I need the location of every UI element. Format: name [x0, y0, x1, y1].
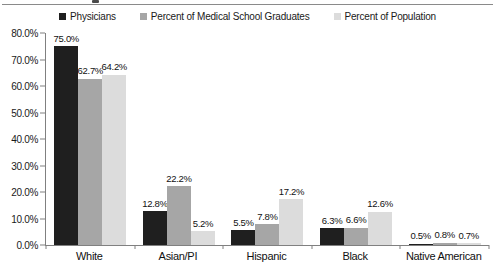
category-label-black: Black [311, 250, 400, 262]
bar-value-label: 22.2% [166, 174, 191, 184]
x-tick-mark [46, 245, 47, 249]
y-tick-mark [40, 112, 45, 113]
bar-percent-of-medical-school-graduates [433, 243, 457, 245]
y-axis: 80.0%70.0%60.0%50.0%40.0%30.0%20.0%10.0%… [0, 33, 38, 245]
cropped-text-artifact [92, 0, 99, 3]
bar-value-label: 0.8% [434, 230, 454, 240]
legend-item-percent-of-medical-school-graduates: Percent of Medical School Graduates [140, 11, 310, 22]
bar-value-label: 5.5% [233, 218, 253, 228]
bar-cell: 62.7% [78, 33, 102, 245]
bar-group-hispanic: 5.5%7.8%17.2% [223, 33, 312, 245]
legend-label: Percent of Medical School Graduates [151, 11, 310, 22]
bar-group-asian-pi: 12.8%22.2%5.2% [135, 33, 224, 245]
y-tick-label: 20.0% [11, 187, 38, 198]
category-label-hispanic: Hispanic [222, 250, 311, 262]
bar-percent-of-medical-school-graduates [78, 79, 102, 245]
bar-percent-of-medical-school-graduates [255, 224, 279, 245]
bar-percent-of-population [191, 231, 215, 245]
bar-value-label: 12.6% [367, 199, 392, 209]
bar-cell: 5.2% [191, 33, 215, 245]
bar-cell: 12.6% [368, 33, 392, 245]
legend-swatch-icon [334, 13, 341, 20]
bar-cell: 0.8% [433, 33, 457, 245]
y-tick-label: 70.0% [11, 54, 38, 65]
bar-group-native-american: 0.5%0.8%0.7% [400, 33, 489, 245]
bar-cell: 6.3% [320, 33, 344, 245]
y-tick-mark [40, 33, 45, 34]
legend-swatch-icon [140, 13, 147, 20]
y-tick-label: 80.0% [11, 28, 38, 39]
bar-cell: 7.8% [255, 33, 279, 245]
category-label-native-american: Native American [399, 250, 488, 262]
bar-cell: 12.8% [143, 33, 167, 245]
y-tick-label: 10.0% [11, 213, 38, 224]
x-tick-mark [489, 245, 490, 249]
legend-label: Percent of Population [345, 11, 436, 22]
chart-legend: PhysiciansPercent of Medical School Grad… [0, 11, 495, 22]
bar-physicians [54, 46, 78, 245]
bar-percent-of-population [457, 243, 481, 245]
bar-value-label: 12.8% [142, 199, 167, 209]
x-tick-mark [223, 245, 224, 249]
bar-cell: 64.2% [102, 33, 126, 245]
bar-value-label: 5.2% [193, 219, 213, 229]
y-tick-label: 50.0% [11, 107, 38, 118]
y-tick-mark [40, 86, 45, 87]
x-axis: WhiteAsian/PIHispanicBlackNative America… [45, 250, 488, 262]
bar-value-label: 7.8% [257, 212, 277, 222]
bar-cell: 6.6% [344, 33, 368, 245]
y-tick-mark [40, 165, 45, 166]
bar-percent-of-population [368, 212, 392, 245]
y-tick-label: 60.0% [11, 81, 38, 92]
bar-value-label: 0.7% [458, 231, 478, 241]
bar-cell: 75.0% [54, 33, 78, 245]
legend-item-physicians: Physicians [59, 11, 116, 22]
bar-cell: 22.2% [167, 33, 191, 245]
bar-physicians [409, 244, 433, 245]
bar-value-label: 6.6% [346, 215, 366, 225]
plot-area: 75.0%62.7%64.2%12.8%22.2%5.2%5.5%7.8%17.… [45, 33, 489, 246]
bar-value-label: 75.0% [54, 34, 79, 44]
x-tick-mark [311, 245, 312, 249]
x-tick-mark [400, 245, 401, 249]
y-tick-label: 30.0% [11, 160, 38, 171]
bar-physicians [231, 230, 255, 245]
chart-figure: PhysiciansPercent of Medical School Grad… [0, 0, 495, 269]
bar-value-label: 0.5% [410, 231, 430, 241]
bar-groups: 75.0%62.7%64.2%12.8%22.2%5.2%5.5%7.8%17.… [46, 33, 489, 245]
y-tick-label: 0.0% [16, 240, 38, 251]
bar-value-label: 62.7% [78, 66, 103, 76]
legend-label: Physicians [70, 11, 116, 22]
bar-cell: 17.2% [279, 33, 303, 245]
bar-value-label: 64.2% [102, 62, 127, 72]
bar-cell: 5.5% [231, 33, 255, 245]
y-tick-mark [40, 218, 45, 219]
y-tick-mark [40, 59, 45, 60]
top-rule-line [2, 4, 493, 5]
y-tick-mark [40, 192, 45, 193]
y-tick-label: 40.0% [11, 134, 38, 145]
bar-physicians [320, 228, 344, 245]
bar-cell: 0.7% [457, 33, 481, 245]
y-tick-mark [40, 245, 45, 246]
bar-value-label: 6.3% [322, 216, 342, 226]
bar-group-white: 75.0%62.7%64.2% [46, 33, 135, 245]
x-tick-mark [134, 245, 135, 249]
bar-cell: 0.5% [409, 33, 433, 245]
category-label-asian-pi: Asian/PI [134, 250, 223, 262]
y-tick-mark [40, 139, 45, 140]
bar-percent-of-medical-school-graduates [167, 186, 191, 245]
category-label-white: White [45, 250, 134, 262]
bar-group-black: 6.3%6.6%12.6% [312, 33, 401, 245]
bar-value-label: 17.2% [279, 187, 304, 197]
legend-item-percent-of-population: Percent of Population [334, 11, 436, 22]
bar-percent-of-medical-school-graduates [344, 228, 368, 245]
bar-physicians [143, 211, 167, 245]
bar-percent-of-population [102, 75, 126, 245]
legend-swatch-icon [59, 13, 66, 20]
bar-percent-of-population [279, 199, 303, 245]
